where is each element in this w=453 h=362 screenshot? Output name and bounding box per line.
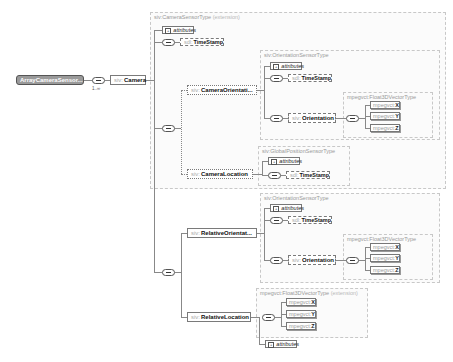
choice-compositor[interactable] xyxy=(162,125,175,132)
element-vector-x[interactable]: mpegvct:X xyxy=(370,243,400,251)
element-camera[interactable]: siv:Camera xyxy=(110,75,146,85)
attributes-camera[interactable]: +attributes xyxy=(162,26,194,34)
sequence-compositor[interactable] xyxy=(268,172,281,179)
attributes-location[interactable]: +attributes xyxy=(268,157,300,165)
sequence-compositor[interactable] xyxy=(162,39,175,46)
sequence-compositor[interactable] xyxy=(270,217,283,224)
element-orientation[interactable]: siv:Orientation xyxy=(288,113,336,123)
group-label: siv:GlobalPositionSensorType xyxy=(262,148,335,154)
element-vector-x[interactable]: mpegvct:X xyxy=(370,101,400,109)
group-label: mpegvct:Float3DVectorType (extension) xyxy=(260,290,358,296)
group-label: mpegvct:Float3DVectorType xyxy=(347,236,416,242)
sequence-compositor[interactable] xyxy=(270,75,283,82)
sequence-compositor[interactable] xyxy=(262,314,275,321)
group-label: mpegvct:Float3DVectorType xyxy=(347,94,416,100)
element-vector-x[interactable]: mpegvct:X xyxy=(286,298,316,306)
sequence-compositor[interactable] xyxy=(162,269,175,276)
element-camera-location[interactable]: siv:CameraLocation xyxy=(187,169,253,179)
element-vector-y[interactable]: mpegvct:Y xyxy=(370,112,400,120)
root-element-array-camera-sensor[interactable]: ArrayCameraSensor... xyxy=(16,75,84,85)
element-timestamp[interactable]: sdl:TimeStamp xyxy=(288,74,332,82)
element-vector-z[interactable]: mpegvct:Z xyxy=(370,266,400,274)
sequence-compositor[interactable] xyxy=(346,115,359,122)
multiplicity-label: 1..∞ xyxy=(92,86,100,91)
sequence-compositor[interactable] xyxy=(92,77,105,84)
element-timestamp[interactable]: sdl:TimeStamp xyxy=(180,38,224,46)
element-relative-orientation[interactable]: siv:RelativeOrientat... xyxy=(187,228,257,238)
element-vector-y[interactable]: mpegvct:Y xyxy=(370,254,400,262)
element-vector-z[interactable]: mpegvct:Z xyxy=(286,322,316,330)
attributes-orientation[interactable]: +attributes xyxy=(270,62,302,70)
group-label: siv:OrientationSensorType xyxy=(264,52,329,58)
group-label: siv:CameraSensorType (extension) xyxy=(154,14,240,20)
group-label: siv:OrientationSensorType xyxy=(264,195,329,201)
element-timestamp[interactable]: sdl:TimeStamp xyxy=(288,216,332,224)
element-camera-orientation[interactable]: siv:CameraOrientati... xyxy=(187,85,257,95)
element-relative-location[interactable]: siv:RelativeLocation xyxy=(187,312,251,322)
element-vector-z[interactable]: mpegvct:Z xyxy=(370,124,400,132)
sequence-compositor[interactable] xyxy=(270,115,283,122)
sequence-compositor[interactable] xyxy=(270,257,283,264)
global-position-sensor-type-group: siv:GlobalPositionSensorType xyxy=(258,146,350,186)
sequence-compositor[interactable] xyxy=(346,257,359,264)
attributes-relative-location[interactable]: +attributes xyxy=(265,340,297,348)
element-timestamp[interactable]: sdl:TimeStamp xyxy=(286,171,330,179)
element-vector-y[interactable]: mpegvct:Y xyxy=(286,310,316,318)
attributes-relative-orientation[interactable]: +attributes xyxy=(270,204,302,212)
element-orientation[interactable]: siv:Orientation xyxy=(288,255,336,265)
